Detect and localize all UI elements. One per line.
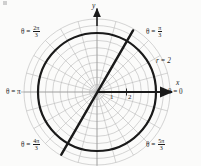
radius-annotation: r = 2 bbox=[156, 58, 171, 65]
theta-pi-3-lhs: θ = bbox=[146, 28, 157, 36]
fraction-2pi-3: 2π3 bbox=[33, 25, 40, 38]
fraction-denominator: 3 bbox=[33, 31, 40, 38]
theta-pi-lhs: θ = bbox=[6, 88, 17, 96]
theta-4pi-3-lhs: θ = bbox=[21, 141, 32, 149]
fraction-numerator: 5π bbox=[158, 138, 165, 144]
fraction-denominator: 3 bbox=[33, 144, 40, 151]
angle-label-theta-pi-3: θ = π3 bbox=[146, 25, 162, 38]
tick-label-2: 2 bbox=[128, 94, 132, 101]
theta-0-value: 0 bbox=[179, 88, 183, 96]
tick-label-1: 1 bbox=[110, 94, 114, 101]
fraction-numerator: 4π bbox=[33, 138, 40, 144]
y-axis-label: y bbox=[92, 2, 95, 10]
angle-label-theta-0: θ = 0 bbox=[168, 89, 183, 96]
angle-label-theta-5pi-3: θ = 5π3 bbox=[146, 138, 165, 151]
x-axis-label: x bbox=[176, 79, 179, 87]
angle-label-theta-2pi-3: θ = 2π3 bbox=[21, 25, 40, 38]
fraction-5pi-3: 5π3 bbox=[158, 138, 165, 151]
angle-label-theta-4pi-3: θ = 4π3 bbox=[21, 138, 40, 151]
fraction-pi-3: π3 bbox=[158, 25, 162, 38]
fraction-numerator: π bbox=[158, 25, 162, 31]
polar-coordinate-figure: y x r = 2 1 2 θ = 0 θ = π3 θ = 2π3 θ = π… bbox=[0, 0, 201, 166]
theta-2pi-3-lhs: θ = bbox=[21, 28, 32, 36]
angle-label-theta-pi: θ = π bbox=[6, 89, 21, 96]
fraction-4pi-3: 4π3 bbox=[33, 138, 40, 151]
theta-5pi-3-lhs: θ = bbox=[146, 141, 157, 149]
theta-0-lhs: θ = bbox=[168, 88, 179, 96]
fraction-denominator: 3 bbox=[158, 31, 162, 38]
theta-pi-value: π bbox=[17, 88, 21, 96]
fraction-denominator: 3 bbox=[158, 144, 165, 151]
fraction-numerator: 2π bbox=[33, 25, 40, 31]
